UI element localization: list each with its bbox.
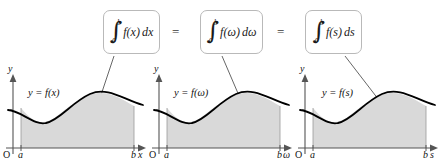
y-axis-arrow-icon bbox=[10, 74, 17, 82]
y-axis-arrow-icon bbox=[302, 74, 309, 82]
integral-expression-omega: ∫ b a f(ω) dω bbox=[207, 22, 257, 42]
lower-limit: a bbox=[112, 37, 116, 43]
graph-panel-omega: y ω O a b y = f(ω) bbox=[146, 60, 292, 167]
lower-limit: a bbox=[315, 37, 319, 43]
upper-limit: b bbox=[117, 20, 121, 26]
x-axis-label: ω bbox=[283, 149, 290, 160]
lower-bound-label: a bbox=[18, 149, 23, 160]
figure-canvas: ∫ b a f(x) dx = ∫ b a f(ω) dω = ∫ b a bbox=[0, 0, 438, 167]
equals-sign-1: = bbox=[172, 24, 179, 40]
upper-bound-label: b bbox=[423, 149, 428, 160]
upper-bound-label: b bbox=[277, 149, 282, 160]
lower-bound-label: a bbox=[164, 149, 169, 160]
integrand: f(ω) bbox=[220, 26, 240, 38]
y-axis-label: y bbox=[154, 63, 158, 74]
x-axis-label: x bbox=[138, 149, 142, 160]
upper-limit: b bbox=[214, 20, 218, 26]
lower-bound-label: a bbox=[310, 149, 315, 160]
curve-label: y = f(s) bbox=[322, 87, 353, 98]
differential: dx bbox=[142, 26, 153, 38]
curve-label: y = f(ω) bbox=[174, 87, 208, 98]
y-axis-label: y bbox=[300, 63, 304, 74]
x-axis-label: s bbox=[430, 149, 434, 160]
upper-bound-label: b bbox=[131, 149, 136, 160]
origin-label: O bbox=[149, 149, 156, 160]
graph-panel-s: y s O a b y = f(s) bbox=[292, 60, 438, 167]
integral-sign-icon: ∫ b a bbox=[110, 22, 123, 42]
integral-sign-icon: ∫ b a bbox=[207, 22, 220, 42]
differential: dω bbox=[242, 26, 256, 38]
graph-panel-x: y x O a b y = f(x) bbox=[0, 60, 146, 167]
upper-limit: b bbox=[320, 20, 324, 26]
origin-label: O bbox=[3, 149, 10, 160]
differential: ds bbox=[344, 26, 355, 38]
curve-label: y = f(x) bbox=[28, 87, 60, 98]
formula-box-x[interactable]: ∫ b a f(x) dx bbox=[103, 10, 160, 54]
equals-sign-2: = bbox=[277, 24, 284, 40]
integral-expression-x: ∫ b a f(x) dx bbox=[110, 22, 154, 42]
y-axis-arrow-icon bbox=[156, 74, 163, 82]
lower-limit: a bbox=[209, 37, 213, 43]
formula-box-omega[interactable]: ∫ b a f(ω) dω bbox=[200, 10, 263, 54]
integrand: f(s) bbox=[326, 26, 342, 38]
integrand: f(x) bbox=[123, 26, 140, 38]
y-axis-label: y bbox=[8, 63, 12, 74]
integral-sign-icon: ∫ b a bbox=[312, 22, 325, 42]
origin-label: O bbox=[295, 149, 302, 160]
formula-box-s[interactable]: ∫ b a f(s) ds bbox=[305, 10, 362, 54]
integral-expression-s: ∫ b a f(s) ds bbox=[312, 22, 354, 42]
